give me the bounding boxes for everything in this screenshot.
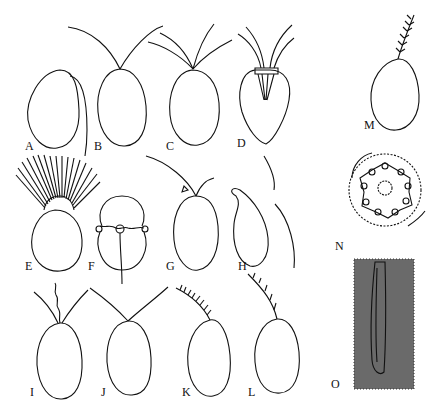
panel-label-h: H [238,260,247,272]
panel-i-drawing [34,283,88,399]
panel-label-n: N [335,240,344,252]
panel-label-i: I [30,386,34,398]
panel-label-k: K [182,386,191,398]
panel-d-drawing [238,25,294,144]
panel-label-g: G [166,260,175,272]
panel-b-drawing [68,26,163,146]
panel-label-l: L [248,386,255,398]
panel-label-j: J [101,386,106,398]
panel-label-b: B [94,140,102,152]
panel-o-micrograph [354,259,414,389]
panel-label-a: A [25,140,34,152]
panel-m-drawing [371,15,419,130]
panel-f-drawing [96,196,148,284]
panel-g-drawing [146,156,218,270]
panel-label-m: M [364,119,375,131]
panel-label-c: C [166,140,174,152]
panel-e-drawing [16,155,100,271]
panel-n-cross-section [349,153,425,226]
panel-a-drawing [28,70,87,156]
panel-c-drawing [148,24,232,145]
panel-h-drawing [232,156,295,268]
panel-label-o: O [331,378,340,390]
panel-j-drawing [90,287,168,395]
flagella-diagram [0,0,447,411]
panel-l-drawing [248,273,299,393]
panel-label-d: D [237,137,246,149]
panel-label-f: F [88,260,95,272]
panel-label-e: E [25,260,32,272]
panel-k-drawing [176,285,230,396]
